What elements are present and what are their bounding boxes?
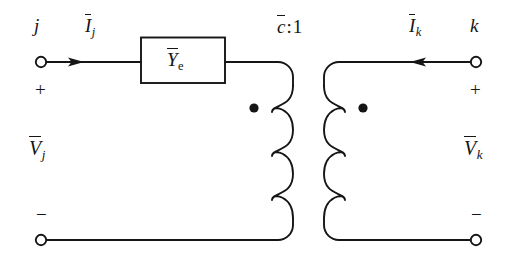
current-right-symbol: I [409, 14, 415, 35]
terminal-bottom-right [471, 235, 481, 245]
wire-box-to-primary-coil [225, 62, 293, 86]
current-left-subscript: j [92, 25, 95, 39]
admittance-symbol: Y [167, 48, 178, 69]
primary-dot [249, 103, 258, 112]
voltage-right-symbol: V [464, 136, 476, 158]
terminal-bottom-left [36, 235, 46, 245]
turns-ratio-separator: : [286, 16, 291, 37]
circuit-schematic-svg: .wire { fill: none; stroke: #151515; str… [0, 0, 517, 267]
terminal-top-right [471, 57, 481, 67]
admittance-subscript: e [178, 59, 184, 73]
node-label-right: k [470, 16, 478, 35]
secondary-winding [324, 86, 345, 218]
voltage-left-subscript: j [42, 147, 46, 162]
wire-top-right [324, 62, 471, 86]
terminal-top-left [36, 57, 46, 67]
secondary-dot [358, 103, 367, 112]
polarity-plus-left: + [35, 80, 46, 99]
turns-ratio-secondary: 1 [293, 16, 303, 37]
turns-ratio-symbol: c [277, 15, 285, 36]
current-left-symbol: I [85, 14, 91, 35]
voltage-label-right: Vk [464, 136, 483, 161]
current-right-subscript: k [416, 25, 422, 39]
circuit-diagram-figure: .wire { fill: none; stroke: #151515; str… [0, 0, 517, 267]
voltage-left-symbol: V [29, 136, 41, 158]
current-label-left: Ij [85, 14, 95, 38]
voltage-label-left: Vj [29, 136, 45, 161]
polarity-minus-right: − [471, 205, 482, 224]
wire-primary-coil-to-bottom-left [46, 218, 293, 240]
polarity-plus-right: + [470, 80, 481, 99]
current-label-right: Ik [409, 14, 421, 38]
polarity-minus-left: − [36, 205, 47, 224]
voltage-right-subscript: k [477, 147, 483, 162]
primary-winding [272, 86, 293, 218]
admittance-label: Ye [167, 48, 184, 72]
wire-secondary-coil-to-bottom-right [324, 218, 471, 240]
node-label-left: j [34, 16, 39, 35]
turns-ratio-label: c:1 [277, 15, 302, 36]
